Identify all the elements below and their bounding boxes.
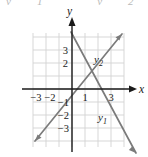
- curve-label-y1: y1: [97, 111, 107, 126]
- y-tick-label-2: −1: [58, 97, 69, 108]
- x-axis-arrow: [129, 86, 137, 93]
- y-axis-arrow: [69, 17, 76, 26]
- y-tick-label-0: 3: [63, 45, 68, 56]
- x-tick-label-1: −2: [44, 92, 55, 103]
- x-axis-label: x: [138, 83, 145, 95]
- y-tick-label-3: −2: [58, 110, 69, 121]
- y-tick-label-4: −3: [58, 123, 69, 134]
- x-tick-label-0: −3: [30, 92, 41, 103]
- y-tick-label-1: 2: [63, 58, 68, 69]
- coordinate-plane: y x −3 −2 1 3 3 2 −1 −2 −3 y2 y1: [0, 0, 148, 157]
- curve-label-y1-sub: 1: [103, 117, 107, 126]
- x-tick-label-2: 1: [82, 92, 87, 103]
- grid-lines: [33, 33, 124, 147]
- graph-figure: y1 y2: [0, 0, 148, 157]
- curve-label-y2: y2: [93, 53, 103, 68]
- y-axis-label: y: [66, 5, 73, 18]
- x-tick-label-3: 3: [108, 92, 113, 103]
- curve-label-y2-sub: 2: [99, 59, 103, 68]
